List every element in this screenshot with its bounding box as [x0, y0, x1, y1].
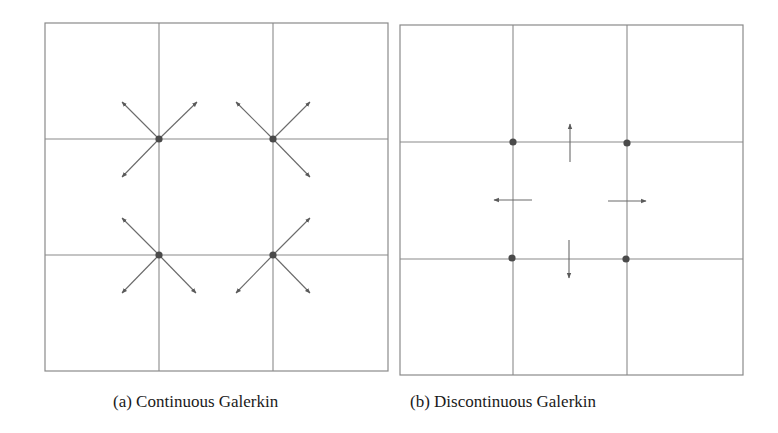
node-point: [508, 254, 515, 261]
node-point: [622, 255, 629, 262]
caption-discontinuous-galerkin: (b) Discontinuous Galerkin: [410, 392, 596, 412]
node-point: [269, 135, 276, 142]
arrow-icon: [122, 139, 159, 177]
node-point: [623, 139, 630, 146]
arrow-icon: [236, 255, 273, 293]
caption-continuous-galerkin: (a) Continuous Galerkin: [113, 392, 278, 412]
node-point: [509, 138, 516, 145]
panel-discontinuous-galerkin: [400, 25, 743, 375]
arrow-icon: [159, 255, 196, 293]
arrow-icon: [273, 102, 310, 139]
arrow-icon: [236, 102, 273, 139]
arrow-icon: [122, 255, 159, 293]
mesh-boundary: [45, 23, 388, 371]
arrow-icon: [122, 102, 159, 139]
panel-continuous-galerkin: [45, 23, 388, 371]
mesh-boundary: [400, 25, 743, 375]
arrow-icon: [273, 218, 310, 255]
arrow-icon: [273, 255, 310, 293]
arrow-icon: [122, 218, 159, 255]
arrow-icon: [273, 139, 310, 177]
node-point: [155, 251, 162, 258]
arrow-icon: [159, 102, 197, 139]
galerkin-figure: [0, 0, 778, 433]
node-point: [269, 251, 276, 258]
node-point: [155, 135, 162, 142]
